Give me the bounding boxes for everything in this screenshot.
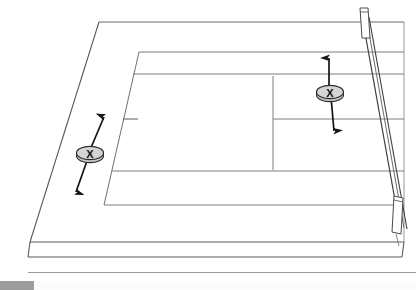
technical-drawing: X X [0, 0, 416, 290]
marker-left-x-icon: X [86, 148, 94, 160]
rail-post-top-body [360, 8, 370, 38]
board-left-thickness-cap [28, 242, 30, 257]
board [28, 22, 404, 257]
figure-root: X X [0, 0, 416, 290]
marker-right-x-icon: X [326, 87, 334, 99]
footer-chip [0, 281, 34, 290]
rail-post-top [360, 8, 370, 38]
footer-wash [34, 281, 416, 290]
board-top-face [30, 22, 404, 245]
footer-strip [0, 272, 416, 290]
footer-rule [28, 272, 416, 273]
